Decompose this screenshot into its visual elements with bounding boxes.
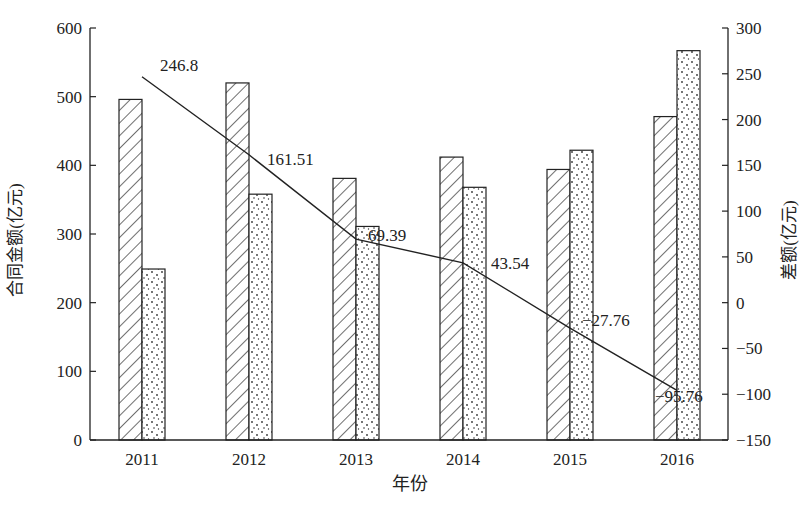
bar-hatch-2013 bbox=[333, 178, 356, 440]
data-label-2016: −95.76 bbox=[655, 387, 703, 406]
bar-dots-2016 bbox=[677, 51, 700, 440]
data-label-2014: 43.54 bbox=[491, 254, 530, 273]
y2-tick-label: 300 bbox=[736, 19, 762, 38]
y2-tick-label: 100 bbox=[736, 202, 762, 221]
y2-tick-label: −150 bbox=[736, 431, 771, 450]
chart-svg: 246.8161.5169.3943.54−27.76−95.76 010020… bbox=[0, 0, 806, 506]
y2-tick-label: 250 bbox=[736, 65, 762, 84]
x-tick-label: 2011 bbox=[125, 450, 158, 469]
x-tick-label: 2014 bbox=[446, 450, 481, 469]
data-label-2012: 161.51 bbox=[267, 150, 314, 169]
bar-hatch-2012 bbox=[226, 83, 249, 440]
y-tick-label: 300 bbox=[57, 225, 83, 244]
difference-polyline bbox=[142, 77, 677, 391]
y2-tick-label: −100 bbox=[736, 385, 771, 404]
x-tick-label: 2016 bbox=[660, 450, 694, 469]
chart: 246.8161.5169.3943.54−27.76−95.76 010020… bbox=[0, 0, 806, 506]
bar-dots-2012 bbox=[249, 194, 272, 440]
x-tick-label: 2012 bbox=[232, 450, 266, 469]
y-tick-label: 500 bbox=[57, 88, 83, 107]
y-tick-label: 600 bbox=[57, 19, 83, 38]
x-tick-label: 2013 bbox=[339, 450, 373, 469]
data-label-2011: 246.8 bbox=[160, 56, 198, 75]
y-axis-label: 合同金额(亿元) bbox=[6, 183, 25, 296]
bar-hatch-2014 bbox=[440, 157, 463, 440]
bars bbox=[119, 51, 700, 440]
bar-dots-2013 bbox=[356, 226, 379, 440]
x-tick-label: 2015 bbox=[553, 450, 587, 469]
y2-tick-label: 50 bbox=[736, 248, 753, 267]
bar-dots-2011 bbox=[142, 269, 165, 440]
y2-axis-label: 差额(亿元) bbox=[780, 200, 799, 279]
bar-dots-2014 bbox=[463, 187, 486, 440]
data-label-2013: 69.39 bbox=[368, 226, 406, 245]
bar-hatch-2011 bbox=[119, 99, 142, 440]
y-tick-label: 400 bbox=[57, 156, 83, 175]
y-tick-label: 200 bbox=[57, 294, 83, 313]
bar-dots-2015 bbox=[570, 150, 593, 440]
y2-tick-label: 0 bbox=[736, 294, 745, 313]
bar-hatch-2015 bbox=[547, 169, 570, 440]
y-tick-label: 0 bbox=[74, 431, 83, 450]
y2-tick-label: 200 bbox=[736, 111, 762, 130]
y-tick-label: 100 bbox=[57, 362, 83, 381]
y2-tick-label: 150 bbox=[736, 156, 762, 175]
x-axis-label: 年份 bbox=[392, 474, 428, 494]
y2-tick-label: −50 bbox=[736, 339, 763, 358]
data-label-2015: −27.76 bbox=[582, 311, 630, 330]
